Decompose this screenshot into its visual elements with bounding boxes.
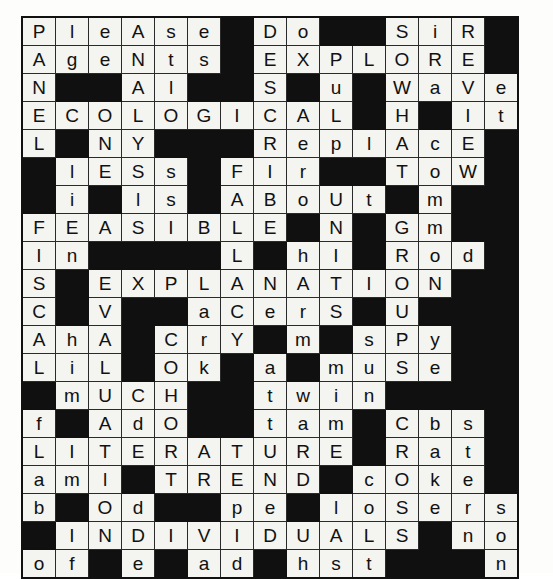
letter-cell[interactable]: m <box>56 382 89 410</box>
letter-cell[interactable]: E <box>320 438 353 466</box>
letter-cell[interactable]: L <box>221 242 254 270</box>
letter-cell[interactable]: N <box>254 270 287 298</box>
letter-cell[interactable]: t <box>254 382 287 410</box>
letter-cell[interactable]: s <box>320 550 353 579</box>
letter-cell[interactable]: L <box>22 354 56 382</box>
letter-cell[interactable]: p <box>221 494 254 522</box>
letter-cell[interactable]: i <box>56 354 89 382</box>
letter-cell[interactable]: t <box>353 186 386 214</box>
letter-cell[interactable]: V <box>89 298 122 326</box>
letter-cell[interactable]: C <box>254 102 287 130</box>
letter-cell[interactable]: f <box>56 550 89 579</box>
letter-cell[interactable]: D <box>254 522 287 550</box>
letter-cell[interactable]: g <box>56 46 89 74</box>
letter-cell[interactable]: W <box>386 74 419 102</box>
letter-cell[interactable]: L <box>188 270 221 298</box>
letter-cell[interactable]: C <box>221 298 254 326</box>
letter-cell[interactable]: A <box>122 17 155 46</box>
letter-cell[interactable]: I <box>155 522 188 550</box>
letter-cell[interactable]: e <box>419 354 452 382</box>
letter-cell[interactable]: t <box>155 46 188 74</box>
letter-cell[interactable]: L <box>221 214 254 242</box>
letter-cell[interactable]: m <box>320 410 353 438</box>
letter-cell[interactable]: N <box>122 46 155 74</box>
letter-cell[interactable]: o <box>287 186 320 214</box>
letter-cell[interactable]: W <box>452 158 485 186</box>
letter-cell[interactable]: o <box>353 494 386 522</box>
letter-cell[interactable]: U <box>320 186 353 214</box>
letter-cell[interactable]: T <box>89 438 122 466</box>
letter-cell[interactable]: A <box>287 102 320 130</box>
letter-cell[interactable]: l <box>122 186 155 214</box>
letter-cell[interactable]: A <box>386 130 419 158</box>
letter-cell[interactable]: r <box>452 494 485 522</box>
letter-cell[interactable]: I <box>56 438 89 466</box>
letter-cell[interactable]: P <box>22 17 56 46</box>
letter-cell[interactable]: s <box>485 494 519 522</box>
letter-cell[interactable]: L <box>89 354 122 382</box>
letter-cell[interactable]: I <box>320 242 353 270</box>
letter-cell[interactable]: D <box>254 17 287 46</box>
letter-cell[interactable]: l <box>56 17 89 46</box>
letter-cell[interactable]: n <box>56 242 89 270</box>
letter-cell[interactable]: H <box>386 102 419 130</box>
letter-cell[interactable]: P <box>155 270 188 298</box>
letter-cell[interactable]: O <box>89 494 122 522</box>
letter-cell[interactable]: S <box>386 354 419 382</box>
letter-cell[interactable]: V <box>452 74 485 102</box>
letter-cell[interactable]: k <box>188 354 221 382</box>
letter-cell[interactable]: X <box>122 270 155 298</box>
letter-cell[interactable]: I <box>353 270 386 298</box>
letter-cell[interactable]: i <box>419 17 452 46</box>
letter-cell[interactable]: i <box>56 186 89 214</box>
letter-cell[interactable]: n <box>452 522 485 550</box>
letter-cell[interactable]: l <box>353 130 386 158</box>
letter-cell[interactable]: A <box>221 270 254 298</box>
letter-cell[interactable]: o <box>22 550 56 579</box>
letter-cell[interactable]: e <box>485 74 519 102</box>
letter-cell[interactable]: O <box>386 466 419 494</box>
letter-cell[interactable]: I <box>22 242 56 270</box>
letter-cell[interactable]: S <box>254 74 287 102</box>
letter-cell[interactable]: l <box>89 466 122 494</box>
letter-cell[interactable]: Y <box>122 130 155 158</box>
letter-cell[interactable]: w <box>287 382 320 410</box>
letter-cell[interactable]: S <box>22 270 56 298</box>
letter-cell[interactable]: E <box>254 214 287 242</box>
letter-cell[interactable]: A <box>287 270 320 298</box>
letter-cell[interactable]: N <box>89 522 122 550</box>
letter-cell[interactable]: F <box>22 214 56 242</box>
letter-cell[interactable]: R <box>386 438 419 466</box>
letter-cell[interactable]: R <box>452 17 485 46</box>
letter-cell[interactable]: L <box>22 438 56 466</box>
letter-cell[interactable]: Y <box>221 326 254 354</box>
letter-cell[interactable]: d <box>122 494 155 522</box>
letter-cell[interactable]: B <box>188 214 221 242</box>
letter-cell[interactable]: I <box>254 158 287 186</box>
letter-cell[interactable]: a <box>188 550 221 579</box>
letter-cell[interactable]: e <box>122 550 155 579</box>
letter-cell[interactable]: R <box>188 466 221 494</box>
letter-cell[interactable]: h <box>287 242 320 270</box>
letter-cell[interactable]: F <box>221 158 254 186</box>
letter-cell[interactable]: C <box>155 326 188 354</box>
letter-cell[interactable]: C <box>122 382 155 410</box>
letter-cell[interactable]: N <box>89 130 122 158</box>
letter-cell[interactable]: i <box>320 382 353 410</box>
letter-cell[interactable]: L <box>353 522 386 550</box>
letter-cell[interactable]: e <box>452 466 485 494</box>
letter-cell[interactable]: m <box>320 354 353 382</box>
letter-cell[interactable]: a <box>188 298 221 326</box>
letter-cell[interactable]: S <box>386 17 419 46</box>
letter-cell[interactable]: L <box>22 130 56 158</box>
letter-cell[interactable]: A <box>89 214 122 242</box>
letter-cell[interactable]: u <box>353 354 386 382</box>
letter-cell[interactable]: y <box>419 326 452 354</box>
letter-cell[interactable]: o <box>287 17 320 46</box>
letter-cell[interactable]: n <box>353 382 386 410</box>
letter-cell[interactable]: d <box>452 242 485 270</box>
letter-cell[interactable]: m <box>419 186 452 214</box>
letter-cell[interactable]: b <box>419 410 452 438</box>
letter-cell[interactable]: m <box>56 466 89 494</box>
letter-cell[interactable]: t <box>485 102 519 130</box>
